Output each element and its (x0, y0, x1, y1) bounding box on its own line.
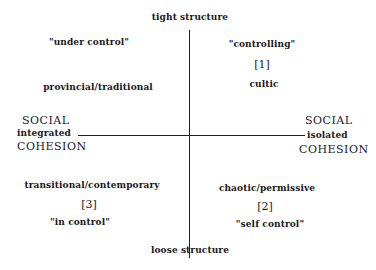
integrated-label: integrated (17, 128, 71, 138)
isolated-label: isolated (307, 130, 348, 140)
self-control-quote: "self control" (236, 219, 304, 229)
controlling-quote: "controlling" (229, 39, 296, 49)
quadrant-number-1: [1] (254, 58, 270, 71)
cultic-label: cultic (249, 79, 278, 89)
vertical-axis-line (189, 30, 190, 258)
right-cohesion-label: COHESION (299, 143, 369, 156)
in-control-quote: "in control" (50, 217, 110, 227)
quadrant-number-3: [3] (81, 198, 97, 211)
quadrant-number-2: [2] (257, 200, 273, 213)
chaotic-permissive-label: chaotic/permissive (219, 183, 315, 193)
left-cohesion-label: COHESION (17, 140, 87, 153)
under-control-quote: "under control" (49, 37, 129, 47)
left-social-label: SOCIAL (22, 114, 70, 127)
horizontal-axis-line (78, 135, 305, 136)
provincial-traditional-label: provincial/traditional (43, 82, 153, 92)
right-social-label: SOCIAL (305, 114, 353, 127)
tight-structure-label: tight structure (152, 12, 228, 22)
transitional-contemporary-label: transitional/contemporary (24, 180, 159, 190)
loose-structure-label: loose structure (151, 245, 229, 255)
